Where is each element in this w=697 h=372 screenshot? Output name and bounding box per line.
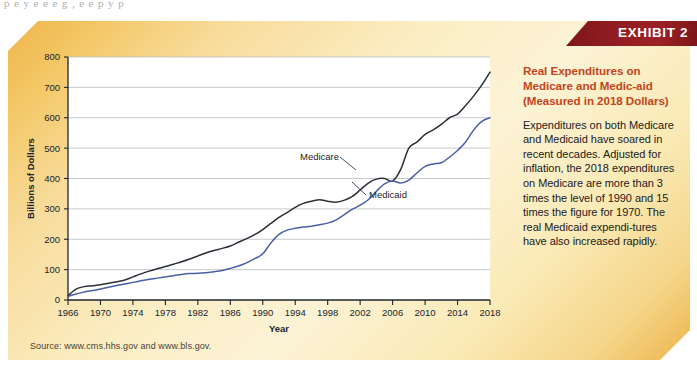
x-tick-label: 1986 — [220, 307, 241, 318]
y-tick-label: 0 — [55, 294, 60, 305]
exhibit-figure: p e y e e e g , e e p y p EXHIBIT 2 0100… — [0, 0, 697, 372]
y-tick-label: 500 — [44, 143, 60, 154]
series-label-medicaid: Medicaid — [369, 189, 407, 200]
y-tick-label: 300 — [44, 203, 60, 214]
x-tick-label: 1970 — [90, 307, 111, 318]
y-tick-label: 200 — [44, 234, 60, 245]
y-axis-title: Billions of Dollars — [25, 138, 36, 219]
x-tick-label: 2010 — [415, 307, 436, 318]
x-tick-label: 1978 — [155, 307, 176, 318]
x-tick-label: 1998 — [317, 307, 338, 318]
x-tick-label: 1974 — [122, 307, 143, 318]
sidebar-text-column: Real Expenditures on Medicare and Medic-… — [523, 63, 677, 249]
x-tick-label: 2006 — [382, 307, 403, 318]
exhibit-description: Expenditures on both Medicare and Medica… — [523, 118, 677, 249]
series-label-medicare: Medicare — [300, 151, 339, 162]
y-tick-label: 700 — [44, 82, 60, 93]
x-tick-label: 1966 — [57, 307, 78, 318]
y-tick-label: 600 — [44, 112, 60, 123]
x-tick-label: 2002 — [350, 307, 371, 318]
y-tick-label: 100 — [44, 264, 60, 275]
exhibit-title: Real Expenditures on Medicare and Medic-… — [523, 63, 677, 109]
x-tick-label: 1994 — [285, 307, 306, 318]
x-axis-title: Year — [269, 323, 289, 334]
x-tick-label: 2018 — [479, 307, 500, 318]
x-tick-label: 1990 — [252, 307, 273, 318]
source-note: Source: www.cms.hhs.gov and www.bls.gov. — [30, 341, 211, 351]
y-tick-label: 800 — [44, 51, 60, 62]
x-tick-label: 1982 — [187, 307, 208, 318]
x-tick-label: 2014 — [447, 307, 468, 318]
y-tick-label: 400 — [44, 173, 60, 184]
